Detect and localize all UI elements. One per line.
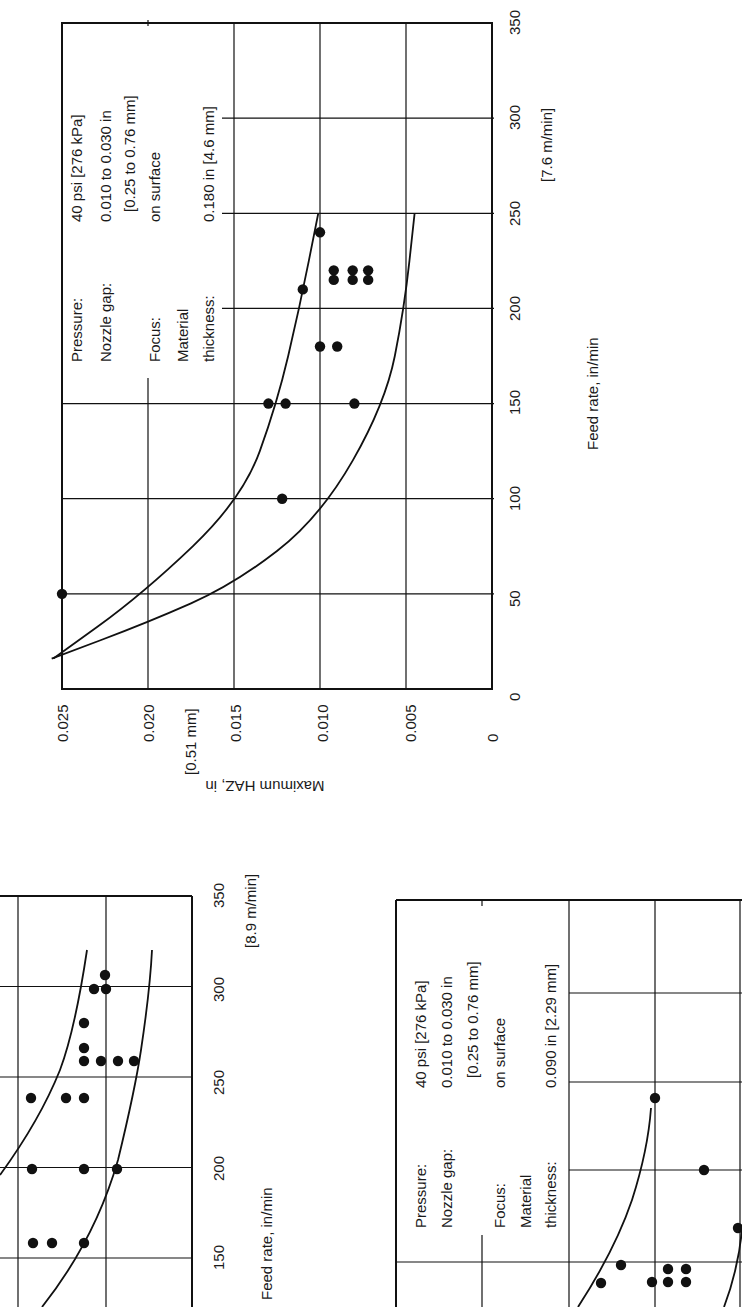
annotation-label: Material bbox=[517, 1175, 534, 1228]
data-point bbox=[79, 1164, 89, 1174]
data-point bbox=[79, 1056, 89, 1066]
data-point bbox=[363, 275, 373, 285]
y-axis-title: Maximum HAZ, in bbox=[205, 778, 324, 795]
y-tick-label: 0.015 bbox=[227, 704, 244, 742]
lower-bound-curve bbox=[52, 213, 415, 658]
data-point bbox=[129, 1056, 139, 1066]
x-tick-label: 350 bbox=[210, 883, 227, 908]
annotation-value: 0.090 in [2.29 mm] bbox=[542, 964, 559, 1088]
annotation-value: 40 psi [276 kPa] bbox=[68, 114, 85, 222]
x-tick-label: 200 bbox=[506, 296, 523, 321]
x-tick-label: 100 bbox=[506, 486, 523, 511]
upper-bound-curve bbox=[578, 1108, 651, 1307]
annotation-value: on surface bbox=[491, 1018, 508, 1088]
data-point bbox=[57, 589, 67, 599]
annotation-label: Focus: bbox=[491, 1183, 508, 1228]
annotation-label: Focus: bbox=[146, 317, 163, 362]
data-point bbox=[349, 398, 359, 408]
lower-bound-curve bbox=[724, 1230, 742, 1307]
x-tick-label: 250 bbox=[210, 1070, 227, 1095]
data-point bbox=[113, 1056, 123, 1066]
annotation-value: [0.25 to 0.76 mm] bbox=[464, 961, 481, 1078]
data-point bbox=[28, 1238, 38, 1248]
data-point bbox=[47, 1238, 57, 1248]
upper-bound-curve bbox=[0, 950, 87, 1175]
x-metric-label: [8.9 m/min] bbox=[242, 874, 259, 948]
x-tick-label: 300 bbox=[210, 977, 227, 1002]
chart-figure: Pressure:40 psi [276 kPa]Nozzle gap:0.01… bbox=[0, 0, 742, 1307]
annotation-value: 0.180 in [4.6 mm] bbox=[200, 106, 217, 222]
y-tick-label: 0.005 bbox=[402, 704, 419, 742]
data-point bbox=[315, 341, 325, 351]
top-chart: Pressure:40 psi [276 kPa]Nozzle gap:0.01… bbox=[52, 10, 601, 795]
annotation-label: Pressure: bbox=[412, 1164, 429, 1228]
x-tick-label: 150 bbox=[210, 1245, 227, 1270]
y-tick-label: 0 bbox=[484, 734, 501, 742]
data-point bbox=[329, 265, 339, 275]
y-tick-label: 0.010 bbox=[314, 704, 331, 742]
data-point bbox=[101, 984, 111, 994]
data-point bbox=[61, 1093, 71, 1103]
x-tick-label: 150 bbox=[506, 390, 523, 415]
x-axis-title: Feed rate, in/min bbox=[584, 337, 601, 450]
data-point bbox=[663, 1277, 673, 1287]
figure-page: Pressure:40 psi [276 kPa]Nozzle gap:0.01… bbox=[0, 0, 742, 1307]
data-point bbox=[112, 1164, 122, 1174]
annotation-value: [0.25 to 0.76 mm] bbox=[121, 95, 138, 212]
data-point bbox=[363, 265, 373, 275]
annotation-label: Nozzle gap: bbox=[97, 283, 114, 362]
data-point bbox=[315, 227, 325, 237]
data-point bbox=[650, 1093, 660, 1103]
x-tick-label: 200 bbox=[210, 1156, 227, 1181]
x-tick-label: 350 bbox=[506, 10, 523, 35]
x-tick-label: 300 bbox=[506, 105, 523, 130]
data-point bbox=[280, 398, 290, 408]
data-point bbox=[79, 1018, 89, 1028]
annotation-label: Material bbox=[174, 309, 191, 362]
y-tick-label: 0.020 bbox=[140, 704, 157, 742]
bottom-left-chart: 150200250300350[8.9 m/min]Feed rate, in/… bbox=[0, 874, 275, 1307]
data-point bbox=[347, 275, 357, 285]
data-point bbox=[298, 284, 308, 294]
annotation-label: Pressure: bbox=[68, 298, 85, 362]
data-point bbox=[277, 494, 287, 504]
x-tick-label: 50 bbox=[506, 590, 523, 607]
data-point bbox=[596, 1278, 606, 1288]
data-point bbox=[681, 1264, 691, 1274]
annotation-label: thickness: bbox=[542, 1161, 559, 1228]
data-point bbox=[100, 970, 110, 980]
data-point bbox=[347, 265, 357, 275]
annotation-value: 0.010 to 0.030 in bbox=[97, 110, 114, 222]
bottom-right-chart: Pressure:40 psi [276 kPa]Nozzle gap:0.01… bbox=[396, 900, 742, 1307]
data-point bbox=[79, 1093, 89, 1103]
lower-bound-curve bbox=[42, 950, 152, 1307]
data-point bbox=[96, 1056, 106, 1066]
data-point bbox=[263, 398, 273, 408]
x-metric-label: [7.6 m/min] bbox=[538, 108, 555, 182]
data-point bbox=[329, 275, 339, 285]
annotation-value: 0.010 to 0.030 in bbox=[438, 976, 455, 1088]
x-tick-label: 250 bbox=[506, 201, 523, 226]
data-point bbox=[332, 341, 342, 351]
x-tick-label: 0 bbox=[506, 693, 523, 701]
annotation-label: thickness: bbox=[200, 295, 217, 362]
data-point bbox=[616, 1260, 626, 1270]
data-point bbox=[89, 984, 99, 994]
upper-bound-curve bbox=[53, 213, 318, 658]
data-point bbox=[647, 1277, 657, 1287]
annotation-label: Nozzle gap: bbox=[438, 1149, 455, 1228]
annotation-value: on surface bbox=[146, 152, 163, 222]
x-axis-title: Feed rate, in/min bbox=[258, 1187, 275, 1300]
data-point bbox=[733, 1223, 742, 1233]
y-tick-label: 0.025 bbox=[54, 704, 71, 742]
data-point bbox=[681, 1277, 691, 1287]
data-point bbox=[27, 1164, 37, 1174]
y-metric-label: [0.51 mm] bbox=[182, 708, 199, 775]
data-point bbox=[79, 1043, 89, 1053]
data-point bbox=[79, 1238, 89, 1248]
data-point bbox=[699, 1165, 709, 1175]
data-point bbox=[26, 1093, 36, 1103]
annotation-value: 40 psi [276 kPa] bbox=[412, 980, 429, 1088]
data-point bbox=[663, 1264, 673, 1274]
